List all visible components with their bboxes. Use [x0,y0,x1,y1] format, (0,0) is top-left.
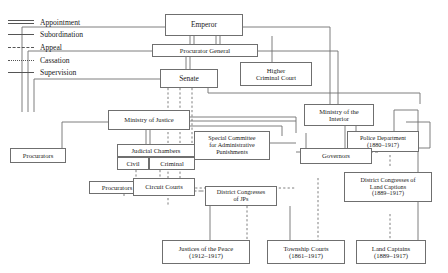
node-label-line1: Township Courts [283,245,328,252]
node-label: Governors [322,152,350,159]
node-label-line2: (1889–1917) [374,252,408,259]
legend-item-subordination: Subordination [8,29,83,42]
node-label-line1: Higher [267,67,285,74]
node-label: Judicial Chambers [132,147,181,154]
node-land-captains[interactable]: Land Captains (1889–1917) [356,240,426,264]
line-style-double-solid-icon [8,17,34,27]
legend: Appointment Subordination Appeal Cassati… [8,16,83,79]
node-label-line3: Punishments [216,149,248,156]
node-label-line2: of JPs [234,196,249,203]
node-ministry-of-justice[interactable]: Ministry of Justice [108,110,190,130]
node-district-congresses-land-captains[interactable]: District Congresses of Land Captions (18… [344,172,432,202]
node-label: Procurator General [180,47,230,54]
node-label: Emperor [191,21,217,29]
link-senate-ministry-of-justice [34,79,160,112]
node-civil[interactable]: Civil [117,157,149,170]
node-label: Ministry of Justice [124,116,173,123]
node-label-line2: (1861–1917) [289,252,323,259]
node-justices-of-the-peace[interactable]: Justices of the Peace (1912–1917) [162,240,250,264]
node-governors[interactable]: Governors [300,148,372,164]
legend-item-appointment: Appointment [8,16,83,29]
node-criminal[interactable]: Criminal [149,157,195,170]
node-label: Procurators [102,184,132,191]
node-district-congresses-jps[interactable]: District Congresses of JPs [205,186,277,206]
node-senate[interactable]: Senate [160,69,218,88]
org-diagram: Appointment Subordination Appeal Cassati… [0,0,448,273]
node-label: Procurators [23,152,53,159]
legend-item-supervision: Supervision [8,66,83,79]
link-ministry-of-justice-judicial-chambers [146,130,150,144]
node-higher-criminal-court[interactable]: Higher Criminal Court [240,62,312,86]
node-label-line1: Justices of the Peace [179,245,233,252]
node-procurator-general[interactable]: Procurator General [152,44,258,57]
node-emperor[interactable]: Emperor [165,14,243,36]
node-label-line1: Land Captains [372,245,410,252]
node-label: Criminal [160,160,183,167]
node-procurators-left[interactable]: Procurators [10,148,66,163]
node-township-courts[interactable]: Township Courts (1861–1917) [267,240,345,264]
line-style-dashed-icon [8,55,34,65]
legend-label: Subordination [40,30,83,39]
node-judicial-chambers[interactable]: Judicial Chambers [117,144,195,157]
node-ministry-of-the-interior[interactable]: Ministry of the Interior [304,104,374,126]
node-label-line3: (1889–1917) [372,190,404,197]
node-label: Circuit Courts [145,183,183,190]
node-label-line1: Ministry of the [319,108,359,115]
legend-item-appeal: Appeal [8,41,83,54]
legend-label: Appeal [40,43,62,52]
node-label-line2: (1912–1917) [189,252,223,259]
node-special-committee[interactable]: Special Committee for Administrative Pun… [194,131,270,160]
legend-label: Appointment [40,18,80,27]
line-style-solid-icon [8,68,34,78]
legend-item-cassation: Cassation [8,54,83,67]
node-label: Senate [179,75,199,83]
node-label-line2: Interior [329,115,349,122]
node-label-line2: Criminal Court [256,74,296,81]
legend-label: Cassation [40,56,70,65]
line-style-solid-icon [8,30,34,40]
line-style-dash-dot-icon [8,42,34,52]
link-ministry-of-justice-procurators [62,122,108,155]
node-circuit-courts[interactable]: Circuit Courts [133,178,195,196]
node-label: Civil [126,160,139,167]
legend-label: Supervision [40,68,76,77]
